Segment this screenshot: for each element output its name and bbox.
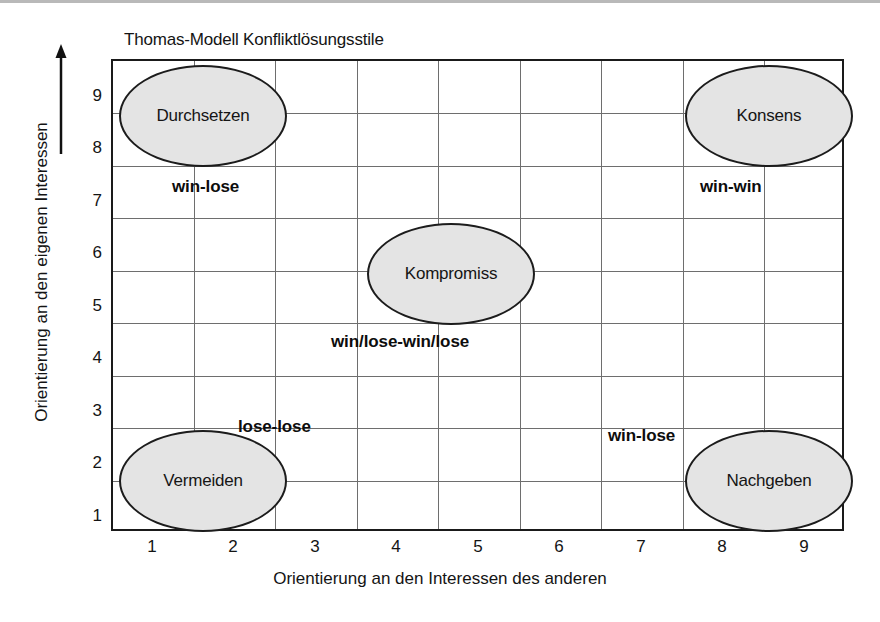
gridline-h-3 [113, 218, 842, 219]
gridline-v-6 [601, 61, 602, 529]
bubble-nachgeben[interactable]: Nachgeben [685, 430, 853, 532]
x-tick-9: 9 [789, 537, 819, 557]
y-tick-3: 3 [78, 401, 102, 421]
outcome-durchsetzen: win-lose [172, 177, 239, 197]
outcome-vermeiden: lose-lose [238, 417, 311, 437]
y-tick-2: 2 [78, 453, 102, 473]
bubble-label-konsens: Konsens [737, 106, 802, 126]
y-tick-7: 7 [78, 191, 102, 211]
bubble-label-durchsetzen: Durchsetzen [156, 106, 249, 126]
x-tick-1: 1 [137, 537, 167, 557]
y-tick-4: 4 [78, 348, 102, 368]
gridline-h-2 [113, 166, 842, 167]
bubble-konsens[interactable]: Konsens [685, 65, 853, 167]
bubble-label-vermeiden: Vermeiden [163, 471, 242, 491]
bubble-durchsetzen[interactable]: Durchsetzen [119, 65, 287, 167]
outcome-nachgeben: win-lose [608, 426, 675, 446]
x-tick-5: 5 [463, 537, 493, 557]
y-tick-5: 5 [78, 296, 102, 316]
thomas-model-conflict-chart: Thomas-Modell Konfliktlösungsstile Orien… [0, 0, 880, 622]
y-tick-1: 1 [78, 506, 102, 526]
gridline-h-5 [113, 323, 842, 324]
outcome-konsens: win-win [700, 177, 762, 197]
gridline-h-6 [113, 376, 842, 377]
gridline-v-3 [357, 61, 358, 529]
y-axis-title-text: Orientierung an den eigenen Interessen [32, 122, 51, 422]
bubble-label-nachgeben: Nachgeben [726, 471, 811, 491]
gridline-h-7 [113, 428, 842, 429]
y-tick-6: 6 [78, 243, 102, 263]
x-tick-4: 4 [381, 537, 411, 557]
y-tick-8: 8 [78, 138, 102, 158]
page-title: Thomas-Modell Konfliktlösungsstile [124, 30, 384, 50]
outcome-kompromiss: win/lose-win/lose [331, 332, 469, 352]
y-axis-title: Orientierung an den eigenen Interessen [32, 62, 52, 482]
plot-area: Durchsetzen Konsens Kompromiss Vermeiden… [111, 59, 844, 531]
x-tick-8: 8 [707, 537, 737, 557]
x-axis-title: Orientierung an den Interessen des ander… [0, 569, 880, 589]
x-tick-2: 2 [218, 537, 248, 557]
bubble-label-kompromiss: Kompromiss [405, 264, 497, 284]
up-arrow-icon [54, 44, 68, 154]
x-tick-6: 6 [544, 537, 574, 557]
gridline-v-7 [683, 61, 684, 529]
x-tick-7: 7 [626, 537, 656, 557]
x-tick-3: 3 [300, 537, 330, 557]
y-tick-9: 9 [78, 86, 102, 106]
bubble-kompromiss[interactable]: Kompromiss [367, 223, 535, 325]
bubble-vermeiden[interactable]: Vermeiden [119, 430, 287, 532]
x-axis-title-text: Orientierung an den Interessen des ander… [273, 569, 607, 588]
